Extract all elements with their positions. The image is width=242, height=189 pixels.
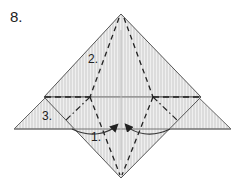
fold-illustration: 2. 3. 1. — [0, 0, 242, 189]
origami-diagram: 8. — [0, 0, 242, 189]
lower-point — [44, 97, 201, 178]
label-fold-3: 3. — [42, 109, 52, 123]
label-fold-2: 2. — [88, 52, 98, 66]
upper-triangle — [44, 14, 201, 97]
label-fold-1: 1. — [91, 130, 101, 144]
step-number: 8. — [10, 8, 23, 25]
